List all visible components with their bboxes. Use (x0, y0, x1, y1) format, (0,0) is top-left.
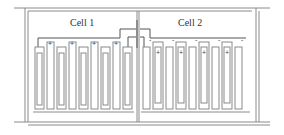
cell-1-sign: + (92, 40, 96, 47)
cell-2-plate-sign: + (156, 49, 160, 56)
cell-1-sign: + (48, 40, 52, 47)
cell-2-sign: - (195, 36, 198, 43)
cell-2-busbar (140, 29, 246, 47)
cell-2-plate-sign: + (225, 49, 229, 56)
cell-2-sign: - (172, 36, 175, 43)
cell-2-sign: - (149, 36, 152, 43)
cell-1-plates (33, 42, 134, 112)
cell-2-plate-sign: + (202, 49, 206, 56)
cell-2-plate-sign: + (179, 49, 183, 56)
cell-1-busbar (38, 29, 136, 47)
cell-2-sign: - (241, 36, 244, 43)
cell-1-sign: + (70, 40, 74, 47)
cell-1-label: Cell 1 (70, 17, 94, 28)
battery-diagram: Cell 1 Cell 2 + + + + (0, 0, 284, 135)
cell-2-sign: - (218, 36, 221, 43)
cell-2-label: Cell 2 (178, 17, 202, 28)
cell-1-sign: + (114, 40, 118, 47)
